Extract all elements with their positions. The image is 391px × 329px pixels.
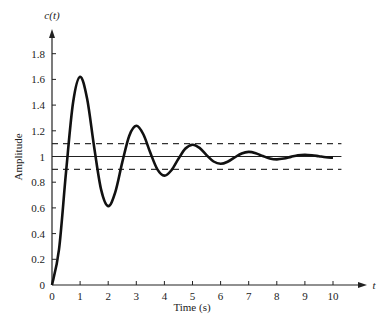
step-response-curve bbox=[52, 77, 333, 285]
x-tick-label: 2 bbox=[105, 290, 111, 302]
x-axis-variable: t bbox=[372, 279, 376, 291]
y-axis-arrow-icon bbox=[49, 29, 55, 38]
x-tick-label: 7 bbox=[246, 290, 252, 302]
x-axis-title: Time (s) bbox=[173, 301, 211, 314]
x-tick-label: 9 bbox=[302, 290, 308, 302]
y-tick-label: 0.2 bbox=[31, 253, 45, 265]
y-tick-label: 0.8 bbox=[31, 176, 45, 188]
x-tick-label: 8 bbox=[274, 290, 280, 302]
y-axis-title: Amplitude bbox=[12, 133, 24, 180]
y-tick-label: 0 bbox=[40, 279, 46, 291]
y-tick-label: 1.4 bbox=[31, 99, 45, 111]
plot-area: 01234567891000.20.40.60.811.21.41.61.8 bbox=[31, 29, 367, 302]
x-tick-label: 1 bbox=[77, 290, 83, 302]
y-tick-label: 1 bbox=[40, 151, 46, 163]
x-tick-label: 3 bbox=[134, 290, 140, 302]
y-tick-label: 1.6 bbox=[31, 73, 45, 85]
x-axis-arrow-icon bbox=[358, 282, 367, 288]
y-tick-label: 1.8 bbox=[31, 48, 45, 60]
x-tick-label: 10 bbox=[328, 290, 340, 302]
x-tick-label: 0 bbox=[49, 290, 55, 302]
y-axis-variable: c(t) bbox=[44, 9, 60, 22]
y-tick-label: 0.4 bbox=[31, 228, 45, 240]
y-tick-label: 1.2 bbox=[31, 125, 45, 137]
chart-canvas: 01234567891000.20.40.60.811.21.41.61.8 A… bbox=[0, 0, 391, 329]
x-tick-label: 4 bbox=[162, 290, 168, 302]
y-tick-label: 0.6 bbox=[31, 202, 45, 214]
x-tick-label: 6 bbox=[218, 290, 224, 302]
